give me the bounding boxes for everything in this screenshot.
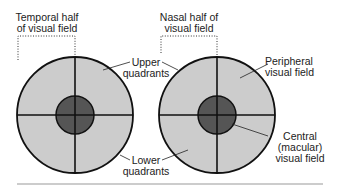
central-line3: visual field bbox=[270, 153, 330, 164]
lower-quadrants-label: Lower quadrants bbox=[118, 155, 174, 177]
upper-quadrants-label: Upper quadrants bbox=[118, 57, 174, 79]
temporal-half-label: Temporal half of visual field bbox=[14, 12, 80, 34]
lower-quadrants-line2: quadrants bbox=[118, 166, 174, 177]
nasal-half-label-line2: visual field bbox=[156, 23, 222, 34]
nasal-half-bracket bbox=[161, 36, 217, 56]
nasal-half-label: Nasal half of visual field bbox=[156, 12, 222, 34]
peripheral-line2: visual field bbox=[265, 67, 314, 78]
right-visual-field bbox=[159, 57, 275, 173]
temporal-half-bracket bbox=[18, 36, 75, 60]
central-macular-visual-field-label: Central (macular) visual field bbox=[270, 131, 330, 164]
peripheral-visual-field-label: Peripheral visual field bbox=[265, 56, 314, 78]
temporal-half-label-line2: of visual field bbox=[14, 23, 80, 34]
left-visual-field bbox=[17, 57, 133, 173]
upper-quadrants-line2: quadrants bbox=[118, 68, 174, 79]
